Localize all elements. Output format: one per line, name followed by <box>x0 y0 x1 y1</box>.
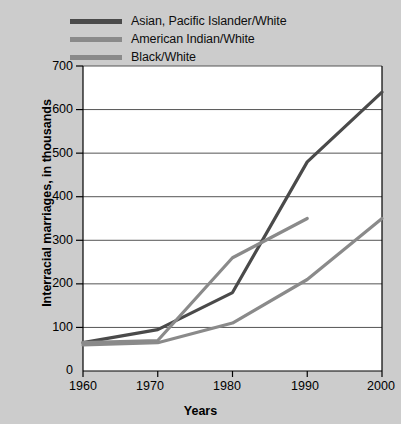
plot-background <box>83 66 382 371</box>
plot-area <box>0 0 401 424</box>
line-chart: Asian, Pacific Islander/White American I… <box>0 0 401 424</box>
